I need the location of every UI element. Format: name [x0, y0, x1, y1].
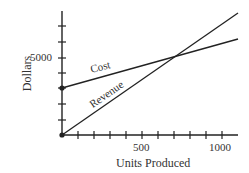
x-tick-label-1000: 1000: [209, 141, 231, 153]
cost-intercept-marker: [59, 85, 64, 90]
y-tick-label-5000: 5000: [30, 51, 52, 63]
origin-marker: [59, 132, 64, 137]
x-axis-label: Units Produced: [116, 156, 190, 171]
revenue-line: [62, 13, 238, 135]
x-tick-label-500: 500: [133, 141, 150, 153]
